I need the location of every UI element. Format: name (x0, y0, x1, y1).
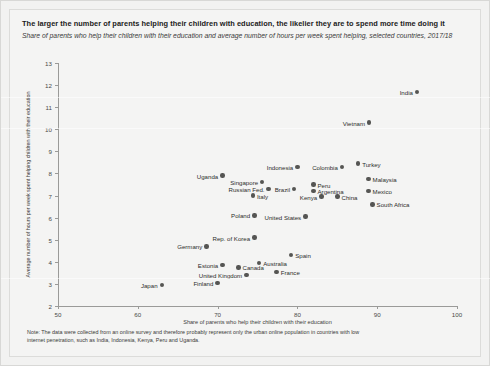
x-tick-mark (138, 306, 139, 309)
chart-subtitle: Share of parents who help their children… (22, 31, 462, 41)
data-point-label: Italy (257, 192, 268, 199)
y-tick-label: 4 (36, 258, 52, 265)
y-tick-mark (55, 218, 58, 219)
y-tick-label: 13 (36, 60, 52, 67)
x-axis-title: Share of parents who help their children… (58, 319, 457, 325)
chart-footnote: Note: The data were collected from an on… (27, 328, 372, 344)
y-tick-mark (55, 63, 58, 64)
x-tick-label: 100 (452, 311, 462, 318)
data-point-marker[interactable] (260, 180, 264, 184)
data-point-label: Indonesia (267, 163, 293, 170)
data-point-marker[interactable] (251, 193, 255, 197)
data-point-label: United Kingdom (199, 272, 242, 279)
x-tick-mark (457, 306, 458, 309)
chart-title: The larger the number of parents helping… (22, 19, 472, 29)
data-point-label: Germany (177, 243, 202, 250)
x-tick-mark (297, 306, 298, 309)
data-point-marker[interactable] (215, 281, 219, 285)
y-tick-label: 11 (36, 104, 52, 111)
data-point-marker[interactable] (244, 273, 248, 277)
data-point-label: Spain (295, 252, 311, 259)
y-axis-line (58, 63, 59, 306)
x-tick-label: 90 (374, 311, 381, 318)
data-point-label: Mexico (373, 188, 392, 195)
data-point-label: Vietnam (343, 119, 365, 126)
y-tick-mark (55, 173, 58, 174)
scatter-plot-area: 2345678910111213 5060708090100 IndiaViet… (58, 63, 457, 306)
data-point-label: Kenya (300, 193, 317, 200)
data-point-marker[interactable] (289, 253, 293, 257)
data-point-label: Brazil (275, 185, 290, 192)
y-tick-label: 8 (36, 170, 52, 177)
data-point-marker[interactable] (160, 283, 164, 287)
data-point-marker[interactable] (367, 120, 371, 124)
data-point-marker[interactable] (311, 182, 315, 186)
y-axis-title: Average number of hours per week spent h… (23, 63, 33, 306)
data-point-marker[interactable] (252, 235, 256, 239)
data-point-label: Australia (263, 259, 287, 266)
data-point-label: Malaysia (373, 175, 397, 182)
data-point-marker[interactable] (356, 161, 360, 165)
data-point-marker[interactable] (274, 270, 278, 274)
y-tick-label: 7 (36, 192, 52, 199)
y-tick-mark (55, 284, 58, 285)
data-point-label: South Africa (377, 201, 410, 208)
x-tick-label: 70 (214, 311, 221, 318)
data-point-marker[interactable] (266, 187, 270, 191)
data-point-marker[interactable] (366, 189, 370, 193)
y-tick-mark (55, 240, 58, 241)
data-point-label: Turkey (362, 160, 380, 167)
y-tick-label: 12 (36, 82, 52, 89)
y-tick-mark (55, 129, 58, 130)
x-tick-mark (377, 306, 378, 309)
data-point-marker[interactable] (366, 177, 370, 181)
x-tick-label: 50 (55, 311, 62, 318)
data-point-marker[interactable] (303, 214, 307, 218)
data-point-marker[interactable] (204, 244, 208, 248)
data-point-marker[interactable] (295, 165, 299, 169)
y-tick-label: 2 (36, 303, 52, 310)
data-point-marker[interactable] (220, 263, 224, 267)
data-point-label: Estonia (198, 262, 218, 269)
y-tick-mark (55, 196, 58, 197)
data-point-label: United States (265, 213, 302, 220)
y-tick-label: 5 (36, 236, 52, 243)
data-point-marker[interactable] (335, 194, 339, 198)
data-point-marker[interactable] (252, 213, 256, 217)
x-tick-mark (218, 306, 219, 309)
data-point-marker[interactable] (220, 173, 224, 177)
data-point-marker[interactable] (415, 90, 419, 94)
y-tick-label: 9 (36, 148, 52, 155)
x-tick-mark (58, 306, 59, 309)
x-axis-line (58, 306, 457, 307)
data-point-label: Canada (243, 264, 264, 271)
data-point-marker[interactable] (236, 265, 240, 269)
data-point-label: Poland (231, 212, 250, 219)
data-point-marker[interactable] (370, 202, 374, 206)
data-point-label: India (400, 88, 413, 95)
data-point-label: Uganda (197, 172, 218, 179)
y-tick-label: 10 (36, 126, 52, 133)
data-point-label: China (342, 193, 358, 200)
data-point-marker[interactable] (340, 165, 344, 169)
y-tick-label: 6 (36, 214, 52, 221)
y-tick-mark (55, 151, 58, 152)
y-tick-mark (55, 85, 58, 86)
y-tick-mark (55, 262, 58, 263)
data-point-label: Finland (193, 279, 213, 286)
data-point-label: France (281, 268, 300, 275)
chart-figure: The larger the number of parents helping… (0, 0, 490, 366)
y-tick-label: 3 (36, 280, 52, 287)
x-tick-label: 80 (294, 311, 301, 318)
data-point-marker[interactable] (292, 187, 296, 191)
data-point-marker[interactable] (319, 194, 323, 198)
data-point-label: Japan (141, 282, 158, 289)
data-point-label: Colombia (312, 163, 338, 170)
y-tick-mark (55, 107, 58, 108)
data-point-label: Rep. of Korea (212, 234, 250, 241)
x-tick-label: 60 (134, 311, 141, 318)
